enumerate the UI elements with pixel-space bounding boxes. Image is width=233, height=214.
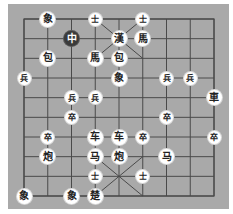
piece-bottom-卒[interactable]: 卒 <box>136 131 149 144</box>
piece-bottom-卒[interactable]: 卒 <box>41 131 54 144</box>
piece-bottom-象[interactable]: 象 <box>17 189 32 204</box>
piece-top-包[interactable]: 包 <box>112 51 127 66</box>
piece-top-漢[interactable]: 漢 <box>112 31 127 46</box>
piece-bottom-车[interactable]: 车 <box>88 130 103 145</box>
piece-top-兵[interactable]: 兵 <box>160 72 173 85</box>
piece-top-象[interactable]: 象 <box>40 12 55 27</box>
piece-top-士[interactable]: 士 <box>136 13 149 26</box>
piece-bottom-车[interactable]: 车 <box>112 130 127 145</box>
piece-top-象[interactable]: 象 <box>112 71 127 86</box>
piece-bottom-卒[interactable]: 卒 <box>65 111 78 124</box>
piece-bottom-楚[interactable]: 楚 <box>88 189 103 204</box>
piece-bottom-士[interactable]: 士 <box>89 170 102 183</box>
piece-top-兵[interactable]: 兵 <box>184 72 197 85</box>
piece-top-士[interactable]: 士 <box>89 13 102 26</box>
piece-top-馬[interactable]: 馬 <box>88 51 103 66</box>
piece-top-兵[interactable]: 兵 <box>18 72 31 85</box>
piece-bottom-卒[interactable]: 卒 <box>208 131 221 144</box>
piece-top-車[interactable]: 車 <box>207 90 222 105</box>
piece-top-包[interactable]: 包 <box>40 51 55 66</box>
piece-bottom-卒[interactable]: 卒 <box>160 111 173 124</box>
piece-bottom-马[interactable]: 马 <box>88 149 103 164</box>
piece-bottom-士[interactable]: 士 <box>136 170 149 183</box>
piece-top-兵[interactable]: 兵 <box>89 91 102 104</box>
piece-bottom-象[interactable]: 象 <box>64 189 79 204</box>
piece-bottom-炮[interactable]: 炮 <box>112 149 127 164</box>
